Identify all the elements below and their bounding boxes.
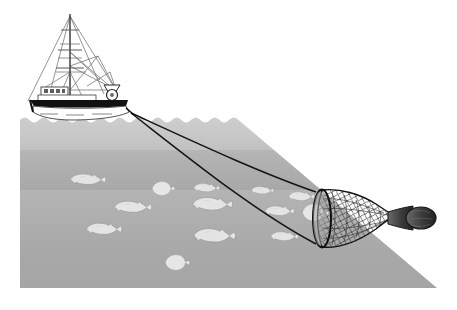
hull-dark-band [30,100,128,108]
fishing-trawler [28,14,133,120]
trawl-gallows [104,85,120,101]
hull-white-body [33,106,129,120]
sea-water-body [20,116,437,288]
net-mouth-opening [313,192,327,246]
illustration-canvas [0,0,457,310]
water-texture [20,116,437,288]
trawl-fishing-illustration [0,0,457,310]
